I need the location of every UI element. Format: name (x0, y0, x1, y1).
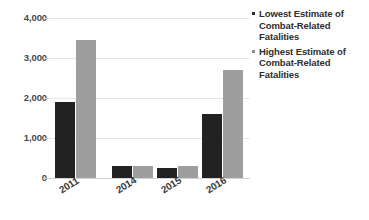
bar-2016-lowest-estimate[interactable] (202, 114, 222, 178)
y-axis-tick-label-4000: 4,000 (5, 13, 47, 23)
bar-chart: 4,000 3,000 2,000 1,000 0 (0, 0, 369, 220)
bar-2011-highest-estimate[interactable] (76, 40, 96, 178)
plot-area (48, 18, 250, 178)
legend-label-highest-estimate: Highest Estimate of Combat-Related Fatal… (259, 46, 368, 81)
bar-2015-highest-estimate[interactable] (178, 166, 198, 178)
bar-2014-highest-estimate[interactable] (133, 166, 153, 178)
gridline-4000 (48, 18, 250, 19)
bar-2016-highest-estimate[interactable] (223, 70, 243, 178)
legend: Lowest Estimate of Combat-Related Fatali… (252, 8, 368, 84)
legend-label-lowest-estimate: Lowest Estimate of Combat-Related Fatali… (259, 8, 368, 43)
legend-swatch-icon-highest-estimate (252, 50, 255, 53)
y-axis-tick-label-1000: 1,000 (5, 133, 47, 143)
y-axis-tick-label-0: 0 (5, 173, 47, 183)
y-axis-tick-label-2000: 2,000 (5, 93, 47, 103)
bar-2011-lowest-estimate[interactable] (55, 102, 75, 178)
legend-item-highest-estimate[interactable]: Highest Estimate of Combat-Related Fatal… (252, 46, 368, 81)
legend-swatch-icon-lowest-estimate (252, 12, 255, 15)
y-axis-tick-label-3000: 3,000 (5, 53, 47, 63)
legend-item-lowest-estimate[interactable]: Lowest Estimate of Combat-Related Fatali… (252, 8, 368, 43)
